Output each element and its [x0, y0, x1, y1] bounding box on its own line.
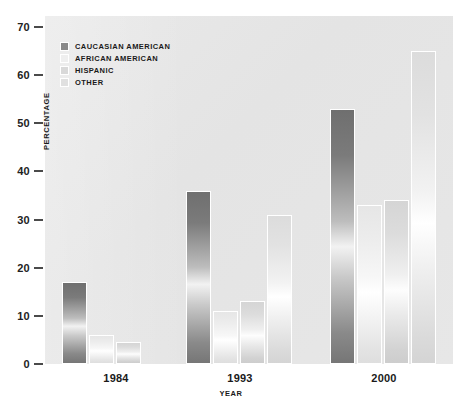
- legend-swatch-icon: [60, 54, 69, 63]
- y-tick-label: 30: [17, 214, 30, 226]
- bar-1993-caucasian-american: [186, 191, 211, 364]
- y-tick-60: 60: [17, 69, 45, 81]
- y-tick-label: 60: [17, 69, 30, 81]
- bar-1993-other: [267, 215, 292, 364]
- bar-1993-hispanic: [240, 301, 265, 364]
- legend-item-caucasian-american: CAUCASIAN AMERICAN: [60, 41, 170, 52]
- y-axis: 706050403020100: [0, 0, 45, 413]
- bar-2000-hispanic: [384, 200, 409, 364]
- legend-item-hispanic: HISPANIC: [60, 65, 170, 76]
- bar-chart: 706050403020100 PERCENTAGE 198419932000 …: [0, 0, 462, 413]
- bar-group-2000: [330, 15, 438, 364]
- bar-group-1993: [186, 15, 294, 364]
- bar-1984-african-american: [89, 335, 114, 364]
- legend-swatch-icon: [60, 66, 69, 75]
- y-tick-label: 70: [17, 21, 30, 33]
- y-tick-70: 70: [17, 21, 45, 33]
- bar-1984-hispanic: [116, 342, 141, 364]
- y-tick-30: 30: [17, 214, 45, 226]
- bar-2000-african-american: [357, 205, 382, 364]
- bar-2000-other: [411, 51, 436, 364]
- y-tick-mark: [34, 170, 43, 172]
- x-axis-baseline: [45, 364, 453, 366]
- legend-swatch-icon: [60, 78, 69, 87]
- x-axis-title: YEAR: [0, 389, 462, 398]
- y-tick-mark: [34, 267, 43, 269]
- legend-swatch-icon: [60, 42, 69, 51]
- y-tick-10: 10: [17, 310, 45, 322]
- legend-item-african-american: AFRICAN AMERICAN: [60, 53, 170, 64]
- y-tick-mark: [34, 74, 43, 76]
- y-tick-mark: [34, 26, 43, 28]
- legend: CAUCASIAN AMERICANAFRICAN AMERICANHISPAN…: [60, 41, 170, 89]
- y-tick-label: 50: [17, 117, 30, 129]
- x-tick-label-2000: 2000: [310, 372, 458, 384]
- y-tick-label: 40: [17, 165, 30, 177]
- bar-1984-caucasian-american: [62, 282, 87, 364]
- legend-item-label: OTHER: [75, 78, 104, 87]
- legend-item-label: CAUCASIAN AMERICAN: [75, 42, 170, 51]
- x-tick-label-1993: 1993: [166, 372, 314, 384]
- y-tick-50: 50: [17, 117, 45, 129]
- legend-item-label: HISPANIC: [75, 66, 114, 75]
- y-tick-40: 40: [17, 165, 45, 177]
- legend-item-label: AFRICAN AMERICAN: [75, 54, 158, 63]
- y-axis-title: PERCENTAGE: [42, 92, 51, 150]
- y-tick-mark: [34, 363, 43, 365]
- y-tick-label: 0: [24, 358, 30, 370]
- y-tick-0: 0: [24, 358, 45, 370]
- y-tick-label: 10: [17, 310, 30, 322]
- y-tick-20: 20: [17, 262, 45, 274]
- bar-1993-african-american: [213, 311, 238, 364]
- bar-2000-caucasian-american: [330, 109, 355, 364]
- y-tick-mark: [34, 315, 43, 317]
- y-tick-mark: [34, 219, 43, 221]
- legend-item-other: OTHER: [60, 77, 170, 88]
- y-tick-label: 20: [17, 262, 30, 274]
